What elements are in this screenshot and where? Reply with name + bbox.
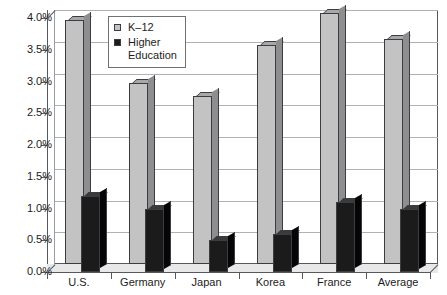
- bar-side-face: [419, 200, 426, 268]
- bar-japan-k12: [193, 96, 212, 264]
- bar-france-higher-education: [336, 202, 355, 272]
- gridline: [55, 74, 438, 75]
- legend-item-k12: K–12: [114, 21, 177, 34]
- bar-korea-higher-education: [273, 234, 292, 272]
- x-axis-label-germany: Germany: [111, 276, 175, 288]
- legend-label-k12: K–12: [128, 21, 154, 34]
- bar-front-face: [336, 202, 355, 272]
- bar-side-face: [212, 88, 219, 260]
- bar-front-face: [273, 234, 292, 272]
- bar-chart: 0.0%0.5%1.0%1.5%2.0%2.5%3.0%3.5%4.0% U.S…: [0, 0, 447, 295]
- y-axis-tick-label: 3.5%: [6, 44, 52, 55]
- bar-front-face: [193, 96, 212, 264]
- bar-side-face: [228, 232, 235, 268]
- y-axis-tick-label: 1.5%: [6, 171, 52, 182]
- legend-swatch-k12-icon: [114, 24, 121, 31]
- bar-u-s--higher-education: [81, 196, 100, 272]
- x-axis-label-france: France: [302, 276, 366, 288]
- y-axis-tick-label: 0.5%: [6, 234, 52, 245]
- gridline: [55, 201, 438, 202]
- gridline: [55, 10, 438, 11]
- legend-label-higher-education-line1: Higher: [128, 36, 177, 49]
- bar-side-face: [355, 194, 362, 268]
- legend-item-higher-education: Higher Education: [114, 36, 177, 62]
- y-axis-tick-label: 3.0%: [6, 76, 52, 87]
- y-axis-tick-label: 1.0%: [6, 203, 52, 214]
- bar-front-face: [145, 209, 164, 273]
- x-axis-label-u-s-: U.S.: [47, 276, 111, 288]
- gridline: [55, 137, 438, 138]
- bar-front-face: [400, 209, 419, 273]
- bar-front-face: [81, 196, 100, 272]
- legend-label-higher-education: Higher Education: [128, 36, 177, 62]
- x-axis-label-average: Average: [366, 276, 430, 288]
- bar-average-higher-education: [400, 209, 419, 273]
- legend-swatch-higher-education-icon: [114, 39, 121, 46]
- gridline: [55, 169, 438, 170]
- chart-legend: K–12 Higher Education: [108, 16, 186, 68]
- x-axis-label-japan: Japan: [175, 276, 239, 288]
- bar-side-face: [100, 188, 107, 268]
- y-axis-tick-label: 2.5%: [6, 107, 52, 118]
- bar-side-face: [164, 200, 171, 268]
- y-axis-tick-label: 2.0%: [6, 139, 52, 150]
- x-axis-label-korea: Korea: [239, 276, 303, 288]
- bar-side-face: [292, 226, 299, 268]
- gridline: [55, 232, 438, 233]
- bar-front-face: [209, 240, 228, 272]
- bar-korea-k12: [257, 45, 276, 264]
- bar-japan-higher-education: [209, 240, 228, 272]
- bar-front-face: [257, 45, 276, 264]
- legend-label-higher-education-line2: Education: [128, 49, 177, 62]
- y-axis-tick-label: 4.0%: [6, 12, 52, 23]
- gridline: [55, 105, 438, 106]
- bar-germany-higher-education: [145, 209, 164, 273]
- bar-side-face: [276, 37, 283, 260]
- y-axis-tick-label: 0.0%: [6, 266, 52, 277]
